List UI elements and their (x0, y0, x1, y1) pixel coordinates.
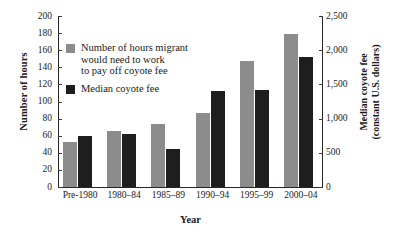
bar-hours (196, 113, 210, 187)
bar-coyote-fee (211, 91, 225, 187)
bar-coyote-fee (255, 90, 269, 187)
y-axis-left-tick-label: 40 (22, 148, 52, 157)
y-axis-left-tick-mark (58, 33, 62, 34)
y-axis-left-tick-mark (58, 67, 62, 68)
y-axis-right-tick-mark (319, 50, 323, 51)
y-axis-left-tick-label: 100 (22, 97, 52, 106)
bar-coyote-fee (78, 136, 92, 187)
chart-legend: Number of hours migrant would need to wo… (66, 42, 256, 100)
y-axis-left-tick-mark (58, 170, 62, 171)
y-axis-right-tick-mark (319, 16, 323, 17)
y-axis-left-tick-mark (58, 187, 62, 188)
x-axis-tick-label: 1990–94 (191, 190, 235, 200)
legend-item: Number of hours migrant would need to wo… (66, 42, 256, 77)
y-axis-left: 200180160140120100806040200 (20, 10, 56, 193)
y-axis-left-tick-label: 60 (22, 131, 52, 140)
y-axis-left-tick-mark (58, 50, 62, 51)
y-axis-left-tick-mark (58, 136, 62, 137)
x-axis-tick-label: 1985–89 (146, 190, 190, 200)
y-axis-left-tick-label: 20 (22, 165, 52, 174)
x-axis-tick-label: 2000–04 (279, 190, 323, 200)
y-axis-right-tick-label: 0 (326, 183, 364, 192)
y-axis-left-tick-mark (58, 102, 62, 103)
x-axis-tick-label: 1995–99 (235, 190, 279, 200)
y-axis-right-title-line: Median coyote fee (358, 22, 370, 162)
bar-hours (151, 124, 165, 187)
y-axis-left-tick-label: 160 (22, 46, 52, 55)
x-axis-tick-label: 1980–84 (102, 190, 146, 200)
y-axis-left-tick-mark (58, 153, 62, 154)
bar-coyote-fee (166, 149, 180, 187)
y-axis-right-tick-label: 2,500 (326, 12, 364, 21)
legend-label: Median coyote fee (81, 83, 159, 95)
y-axis-left-tick-label: 180 (22, 29, 52, 38)
legend-label: Number of hours migrant would need to wo… (81, 42, 188, 77)
y-axis-left-tick-label: 80 (22, 114, 52, 123)
y-axis-right-tick-mark (319, 119, 323, 120)
y-axis-left-tick-mark (58, 119, 62, 120)
bar-coyote-fee (122, 134, 136, 187)
legend-swatch-icon (66, 85, 75, 94)
x-axis-title: Year (58, 214, 323, 225)
y-axis-right-tick-mark (319, 187, 323, 188)
bar-coyote-fee (299, 57, 313, 187)
y-axis-left-tick-label: 120 (22, 80, 52, 89)
x-axis-tick-labels: Pre-19801980–841985–891990–941995–992000… (58, 190, 323, 206)
y-axis-left-tick-label: 0 (22, 183, 52, 192)
y-axis-right-title: Median coyote fee(constant U.S. dollars) (358, 22, 382, 162)
y-axis-right-title-line: (constant U.S. dollars) (370, 22, 382, 162)
y-axis-left-tick-mark (58, 84, 62, 85)
x-axis-line (58, 187, 323, 188)
bar-hours (63, 142, 77, 187)
bar-chart: Number of hours 200180160140120100806040… (0, 0, 395, 233)
y-axis-right-tick-mark (319, 84, 323, 85)
legend-swatch-icon (66, 44, 75, 53)
y-axis-right-tick-mark (319, 153, 323, 154)
y-axis-left-tick-label: 140 (22, 63, 52, 72)
bar-group (279, 16, 323, 187)
y-axis-left-tick-mark (58, 16, 62, 17)
legend-item: Median coyote fee (66, 83, 256, 95)
cropped-title-sliver (62, 0, 212, 2)
bar-hours (107, 131, 121, 187)
y-axis-left-tick-label: 200 (22, 12, 52, 21)
bar-hours (284, 34, 298, 187)
x-axis-tick-label: Pre-1980 (58, 190, 102, 200)
